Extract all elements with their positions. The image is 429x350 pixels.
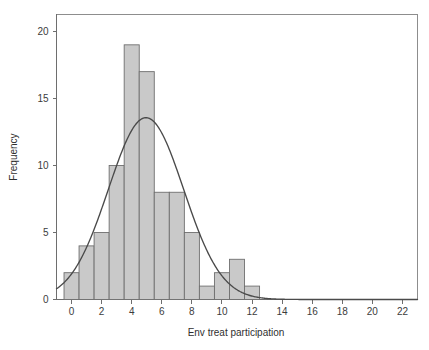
histogram-bar [109, 165, 124, 299]
histogram-bar [154, 192, 169, 299]
x-tick-label: 12 [246, 306, 258, 317]
x-tick-label: 2 [99, 306, 105, 317]
x-tick-label: 8 [189, 306, 195, 317]
histogram-bars [64, 45, 260, 300]
y-axis-ticks: 05101520 [37, 26, 56, 305]
histogram-bar [199, 286, 214, 299]
x-tick-label: 6 [159, 306, 165, 317]
histogram-bar [139, 72, 154, 300]
histogram-bar [169, 192, 184, 299]
x-tick-label: 4 [129, 306, 135, 317]
y-axis-title: Frequency [8, 133, 19, 180]
x-axis-title: Env treat participation [188, 327, 285, 338]
y-tick-label: 20 [37, 26, 49, 37]
x-tick-label: 10 [216, 306, 228, 317]
chart-canvas: 05101520 0246810121416182022 Env treat p… [0, 0, 429, 350]
histogram-bar [79, 246, 94, 300]
y-tick-label: 10 [37, 160, 49, 171]
y-tick-label: 0 [43, 294, 49, 305]
x-tick-label: 20 [367, 306, 379, 317]
x-tick-label: 14 [277, 306, 289, 317]
histogram-chart: 05101520 0246810121416182022 Env treat p… [0, 0, 429, 350]
histogram-bar [184, 232, 199, 299]
y-tick-label: 5 [43, 227, 49, 238]
x-tick-label: 0 [69, 306, 75, 317]
x-tick-label: 18 [337, 306, 349, 317]
histogram-bar [94, 232, 109, 299]
y-tick-label: 15 [37, 93, 49, 104]
x-tick-label: 22 [397, 306, 409, 317]
histogram-bar [124, 45, 139, 300]
histogram-bar [229, 259, 244, 299]
histogram-bar [64, 273, 79, 300]
x-tick-label: 16 [307, 306, 319, 317]
x-axis-ticks: 0246810121416182022 [69, 300, 409, 317]
